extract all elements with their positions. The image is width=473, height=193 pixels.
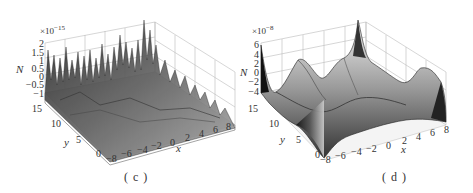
surface-plot-d: ×10−8 6 4 2 0 −2 −4 N 15 10 5 0 y −8 −6 …: [236, 0, 473, 193]
panel-d: ×10−8 6 4 2 0 −2 −4 N 15 10 5 0 y −8 −6 …: [236, 0, 473, 193]
svg-text:−8: −8: [106, 153, 117, 164]
y-label-c: y: [63, 136, 69, 148]
svg-text:−6: −6: [335, 150, 346, 161]
svg-text:−1: −1: [33, 88, 44, 99]
svg-text:−4: −4: [248, 86, 259, 97]
svg-text:−2: −2: [151, 140, 162, 151]
x-label-c: x: [175, 142, 181, 154]
svg-text:−8: −8: [320, 154, 331, 165]
svg-text:0: 0: [170, 137, 175, 148]
caption-d: ( d ): [382, 170, 407, 185]
z-ticks-c: 2 1.5 1 0.5 0 −0.5 −1: [26, 38, 44, 99]
svg-text:15: 15: [32, 103, 42, 114]
svg-text:0: 0: [386, 140, 391, 151]
svg-text:8: 8: [444, 124, 449, 135]
svg-text:8: 8: [226, 121, 231, 132]
y-label-d: y: [279, 133, 285, 145]
svg-text:−4: −4: [137, 144, 148, 155]
x-label-d: x: [400, 143, 406, 155]
z-ticks-d: 6 4 2 0 −2 −4: [248, 39, 259, 97]
svg-text:4: 4: [199, 128, 204, 139]
svg-text:10: 10: [51, 118, 61, 129]
svg-text:6: 6: [213, 124, 218, 135]
svg-text:15: 15: [248, 103, 258, 114]
panel-c: ×10−15 2 1.5 1 0.5 0 −0.5 −1 N 15 10 5 0…: [0, 0, 236, 193]
surface-plot-c: ×10−15 2 1.5 1 0.5 0 −0.5 −1 N 15 10 5 0…: [0, 0, 236, 193]
svg-text:4: 4: [416, 131, 421, 142]
svg-text:10: 10: [269, 118, 279, 129]
svg-text:−2: −2: [366, 143, 377, 154]
svg-text:2: 2: [185, 132, 190, 143]
z-multiplier-c: ×10−15: [40, 24, 66, 36]
svg-text:0: 0: [96, 148, 101, 159]
z-label-c: N: [15, 63, 24, 75]
svg-text:−4: −4: [351, 146, 362, 157]
z-multiplier-d: ×10−8: [252, 24, 274, 36]
svg-text:5: 5: [76, 134, 81, 145]
svg-text:−6: −6: [121, 148, 132, 159]
z-label-d: N: [239, 66, 248, 78]
svg-text:6: 6: [430, 127, 435, 138]
caption-c: ( c ): [124, 170, 148, 185]
svg-text:5: 5: [296, 134, 301, 145]
